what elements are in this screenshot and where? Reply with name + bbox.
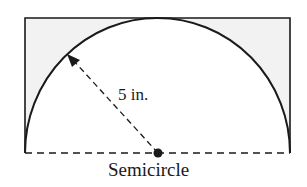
figure-caption: Semicircle <box>108 160 189 179</box>
radius-label: 5 in. <box>118 86 148 103</box>
center-point <box>154 149 163 158</box>
